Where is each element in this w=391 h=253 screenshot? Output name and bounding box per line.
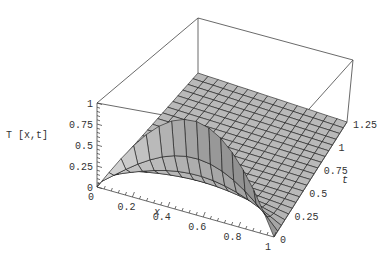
x-tick	[217, 218, 218, 221]
z-tick	[97, 149, 100, 150]
x-tick	[182, 208, 183, 211]
x-tick	[210, 216, 211, 219]
x-tick-label: 0	[88, 192, 94, 203]
t-tick-label: 1	[338, 143, 344, 154]
t-tick-label: 1.25	[353, 120, 377, 131]
z-tick	[97, 158, 100, 159]
x-tick	[154, 200, 155, 203]
box-edge-top-back	[198, 18, 353, 60]
box-edge-back-right-vertical	[347, 60, 353, 122]
t-tick-label: 0.5	[309, 189, 327, 200]
x-tick	[111, 188, 112, 191]
x-tick	[168, 202, 170, 207]
x-tick	[267, 232, 268, 235]
surface-plot: 00.250.50.751 00.20.40.60.81 00.250.50.7…	[0, 0, 391, 253]
x-tick-label: 0.8	[224, 232, 242, 243]
z-tick	[97, 137, 100, 138]
x-tick	[175, 206, 176, 209]
z-tick	[97, 174, 100, 175]
t-axis-label: t	[342, 175, 348, 186]
z-tick	[97, 179, 100, 180]
z-tick	[97, 107, 100, 108]
x-tick	[125, 192, 126, 195]
x-axis-label: x	[153, 207, 160, 218]
x-tick	[239, 222, 241, 227]
x-tick	[203, 212, 205, 217]
x-tick	[232, 222, 233, 225]
z-tick	[97, 120, 100, 121]
z-tick	[97, 170, 100, 171]
x-tick	[246, 226, 247, 229]
x-tick	[118, 190, 119, 193]
x-tick-label: 1	[265, 242, 271, 253]
z-axis-label: T [x,t]	[6, 130, 48, 141]
z-tick	[97, 124, 102, 126]
x-tick	[260, 230, 261, 233]
z-tick-label: 0.5	[75, 141, 93, 152]
x-tick	[139, 196, 140, 199]
x-tick	[147, 198, 148, 201]
z-tick	[97, 132, 100, 133]
z-tick-label: 0.25	[69, 162, 93, 173]
x-tick	[253, 228, 254, 231]
x-tick	[161, 202, 162, 205]
x-tick	[196, 212, 197, 215]
z-tick-label: 1	[87, 99, 93, 110]
x-tick	[224, 220, 225, 223]
z-tick	[97, 141, 100, 142]
z-tick	[97, 128, 100, 129]
z-tick-label: 0.75	[69, 120, 93, 131]
x-tick-label: 0.6	[188, 222, 206, 233]
z-tick	[97, 153, 100, 154]
z-tick	[97, 116, 100, 117]
z-tick	[97, 187, 102, 189]
x-tick-label: 0.2	[117, 202, 135, 213]
surface-cell	[197, 122, 211, 165]
z-tick	[97, 111, 100, 112]
t-tick-label: 0.25	[295, 212, 319, 223]
x-tick	[189, 210, 190, 213]
z-tick	[97, 162, 100, 163]
z-tick	[97, 145, 102, 147]
t-tick-label: 0	[280, 235, 286, 246]
x-tick	[104, 186, 105, 189]
z-tick	[97, 166, 102, 168]
x-tick	[132, 192, 134, 197]
